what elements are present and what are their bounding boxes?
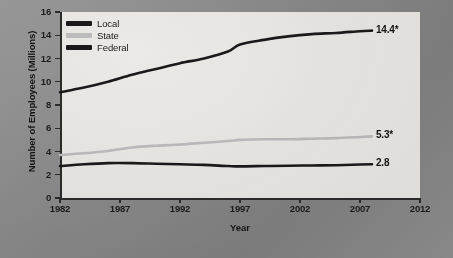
end-label-local: 14.4*: [376, 24, 398, 35]
legend-swatch-federal: [66, 45, 92, 50]
series-line-federal: [60, 163, 372, 166]
y-axis-title: Number of Employees (Millions): [26, 7, 37, 197]
legend-swatch-local: [66, 21, 92, 26]
chart-figure: 0246810121416 19821987199219972002200720…: [0, 0, 453, 258]
legend-item-local[interactable]: Local: [66, 18, 129, 29]
x-axis-title: Year: [180, 222, 300, 233]
legend-label-local: Local: [97, 18, 119, 29]
legend-item-state[interactable]: State: [66, 30, 129, 41]
legend-swatch-state: [66, 33, 92, 38]
legend-label-federal: Federal: [97, 42, 129, 53]
series-line-state: [60, 136, 372, 155]
legend: Local State Federal: [66, 18, 129, 53]
legend-item-federal[interactable]: Federal: [66, 42, 129, 53]
legend-label-state: State: [97, 30, 119, 41]
end-label-federal: 2.8: [376, 157, 389, 168]
end-label-state: 5.3*: [376, 129, 393, 140]
